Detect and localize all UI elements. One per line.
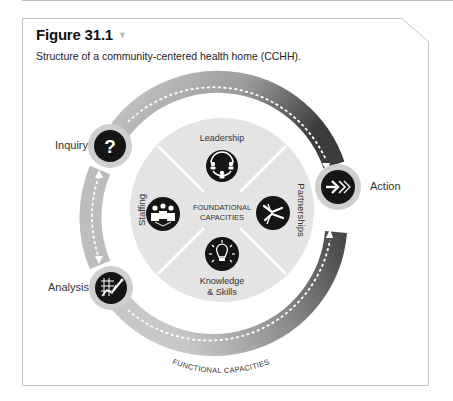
svg-text:?: ? <box>104 136 116 157</box>
question-mark-icon: ? <box>94 130 126 162</box>
functional-inquiry[interactable]: ? <box>88 124 132 168</box>
functional-action[interactable] <box>315 164 361 210</box>
staffing-label: Staffing <box>136 194 147 226</box>
handshake-icon <box>256 196 290 230</box>
functional-capacities-text: FUNCTIONAL CAPACITIES <box>171 357 270 375</box>
functional-capacities-label: FUNCTIONAL CAPACITIES <box>171 357 270 375</box>
center-label-line2: CAPACITIES <box>200 213 244 222</box>
skills-label: & Skills <box>207 287 237 297</box>
leadership-cycle-icon <box>206 150 238 182</box>
center-label-line1: FOUNDATIONAL <box>193 203 251 212</box>
inquiry-label: Inquiry <box>55 139 88 151</box>
leadership-label: Leadership <box>200 133 245 143</box>
functional-analysis[interactable] <box>89 266 133 310</box>
ring-arc-inquiry-analysis <box>90 170 100 265</box>
people-group-icon <box>146 197 180 231</box>
action-label: Action <box>370 180 401 192</box>
partnerships-label: Partnerships <box>296 183 307 237</box>
knowledge-label: Knowledge <box>200 276 245 286</box>
cchh-diagram: FOUNDATIONAL CAPACITIES Leadership Staff… <box>0 0 453 401</box>
lightbulb-icon <box>205 237 239 271</box>
chart-pencil-icon <box>95 272 127 304</box>
forward-arrows-icon <box>321 170 355 204</box>
analysis-label: Analysis <box>48 281 89 293</box>
